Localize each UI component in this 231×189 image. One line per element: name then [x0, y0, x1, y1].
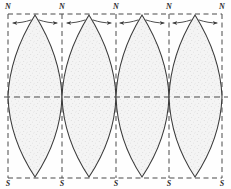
south-pole-label-2: S: [60, 179, 65, 188]
gore-projection-diagram: N N N N N S S S S S: [0, 0, 231, 189]
north-pole-label-4: N: [165, 2, 173, 11]
spread-arrow-right-4: [199, 20, 217, 23]
spread-arrow-left-3: [120, 20, 138, 23]
south-pole-label-4: S: [167, 179, 172, 188]
spread-arrow-left-4: [173, 20, 191, 23]
spread-arrow-left-1: [13, 20, 31, 23]
spread-arrow-right-3: [146, 20, 164, 23]
arrow-group: [13, 20, 217, 23]
gore-3: [116, 15, 169, 177]
gore-group: [8, 15, 222, 177]
gore-1: [8, 15, 62, 177]
spread-arrow-right-2: [93, 20, 111, 23]
north-pole-labels: N N N N N: [4, 2, 226, 11]
north-pole-label-2: N: [58, 2, 66, 11]
spread-arrow-right-1: [39, 20, 57, 23]
figure-root: N N N N N S S S S S: [0, 0, 231, 189]
south-pole-label-5: S: [220, 179, 225, 188]
south-pole-label-1: S: [6, 179, 11, 188]
north-pole-label-5: N: [218, 2, 226, 11]
south-pole-labels: S S S S S: [6, 179, 225, 188]
north-pole-label-1: N: [4, 2, 12, 11]
gore-2: [62, 15, 116, 177]
south-pole-label-3: S: [114, 179, 119, 188]
north-pole-label-3: N: [112, 2, 120, 11]
spread-arrow-left-2: [67, 20, 85, 23]
gore-4: [169, 15, 222, 177]
